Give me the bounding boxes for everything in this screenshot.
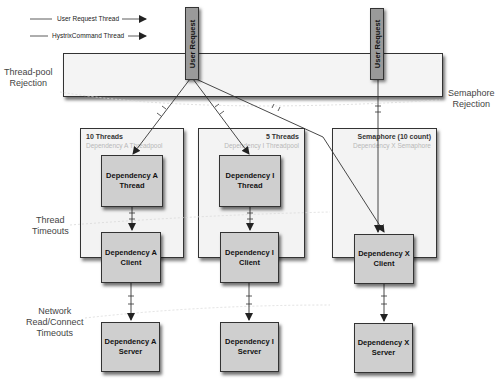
- thread-pool-rejection-label: Thread-pool Rejection: [4, 67, 53, 89]
- user-request-label: User Request: [188, 19, 197, 67]
- dependency-x-server: Dependency X Server: [354, 323, 413, 373]
- legend-user-request-thread: User Request Thread: [57, 15, 119, 22]
- dependency-a-thread: Dependency A Thread: [101, 155, 163, 207]
- dependency-a-client: Dependency A Client: [101, 232, 161, 283]
- user-request-left: User Request: [185, 7, 199, 80]
- user-request-label: User Request: [373, 20, 382, 68]
- network-timeouts-label: Network Read/Connect Timeouts: [26, 306, 84, 339]
- user-request-right: User Request: [370, 8, 384, 80]
- dependency-x-client: Dependency X Client: [354, 234, 414, 284]
- semaphore-rejection-label: Semaphore Rejection: [448, 88, 495, 110]
- thread-timeouts-label: Thread Timeouts: [32, 215, 69, 237]
- dependency-a-server: Dependency A Server: [101, 322, 160, 372]
- dependency-i-client: Dependency I Client: [220, 232, 279, 283]
- dependency-i-server: Dependency I Server: [220, 322, 279, 372]
- dependency-i-thread: Dependency I Thread: [219, 155, 281, 207]
- legend-hystrixcommand-thread: HystrixCommand Thread: [52, 32, 124, 39]
